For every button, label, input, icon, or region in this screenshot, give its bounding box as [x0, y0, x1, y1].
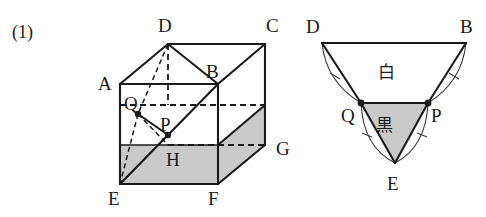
cube-edge-C-B	[218, 44, 265, 84]
cube-edge-A-D	[120, 44, 168, 84]
problem-number-label: (1)	[12, 22, 33, 43]
figure-root: A B C D E F G H P Q	[0, 0, 486, 217]
net-label-E: E	[387, 173, 399, 194]
cube-label-G: G	[276, 138, 290, 159]
net-label-Q: Q	[341, 105, 355, 126]
cube-label-E: E	[108, 188, 120, 209]
net-label-P: P	[431, 105, 442, 126]
cube-diagram: A B C D E F G H P Q	[98, 15, 290, 209]
net-label-white-region: 白	[378, 62, 395, 82]
cube-label-A: A	[98, 73, 112, 94]
cube-label-P: P	[160, 114, 171, 135]
net-edge-D-Q	[322, 43, 361, 103]
net-label-black-region: 黒	[376, 115, 393, 135]
net-label-B: B	[460, 16, 473, 37]
geometry-figure-canvas: A B C D E F G H P Q	[0, 0, 486, 217]
cube-label-B: B	[206, 61, 219, 82]
net-point-Q-dot	[358, 100, 365, 107]
cube-label-Q: Q	[124, 93, 138, 114]
net-tick-arc-D-Q	[330, 73, 340, 79]
cube-label-H: H	[166, 149, 180, 170]
cube-label-F: F	[208, 188, 219, 209]
net-edge-B-P	[428, 43, 466, 103]
net-diagram: D B Q P E 白 黒	[306, 16, 473, 194]
net-label-D: D	[306, 16, 320, 37]
cube-label-C: C	[266, 15, 279, 36]
cube-label-D: D	[158, 15, 172, 36]
cube-construction-line-D-Q	[138, 44, 168, 114]
